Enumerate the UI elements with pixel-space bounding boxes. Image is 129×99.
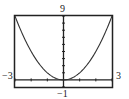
x-max-label: 3 [116,71,121,81]
y-min-label: −1 [57,89,68,99]
x-min-label: −3 [2,71,13,81]
y-max-label: 9 [60,4,65,14]
plot-area [0,0,129,99]
